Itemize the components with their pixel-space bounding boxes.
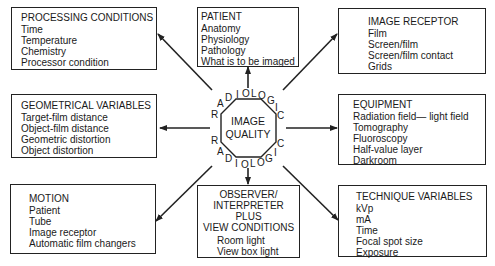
ring-letter: I [235, 159, 238, 169]
box-item: Grids [368, 61, 485, 72]
box-item: Image receptor [29, 227, 155, 238]
box-item: Time [356, 225, 486, 236]
box-item: Radiation field— light field [353, 111, 485, 122]
box-title-line: OBSERVER/ [198, 189, 299, 200]
ring-letter: R [211, 110, 218, 120]
box-item: What is to be imaged [201, 56, 298, 67]
ring-letter: R [211, 136, 218, 146]
box-item: Half-value layer [353, 144, 485, 155]
ring-letter: I [274, 148, 277, 158]
ring-letter: L [251, 89, 257, 99]
box-item: Temperature [21, 35, 156, 46]
ring-letter: O [241, 160, 249, 170]
ring-letter: A [217, 147, 224, 157]
box-item: Chemistry [21, 46, 156, 57]
box-item: View box light [198, 246, 299, 257]
ring-letter: G [265, 154, 273, 164]
box-item: Screen/film contact [368, 50, 485, 61]
technique-variables-box: TECHNIQUE VARIABLES kVp mA Time Focal sp… [338, 185, 487, 257]
box-title: PROCESSING CONDITIONS [21, 12, 156, 23]
box-title-line: PLUS [198, 211, 299, 222]
ring-letter: O [258, 91, 266, 101]
box-item: Exposure [356, 247, 486, 258]
observer-interpreter-box: OBSERVER/ INTERPRETER PLUS VIEW CONDITIO… [197, 185, 300, 258]
box-item: Fluoroscopy [353, 133, 485, 144]
ring-letter: A [217, 99, 224, 109]
box-item: Pathology [201, 45, 298, 56]
equipment-box: EQUIPMENT Radiation field— light field T… [338, 94, 486, 165]
motion-box: MOTION Patient Tube Image receptor Autom… [10, 184, 156, 254]
box-item: Physiology [201, 34, 298, 45]
box-item: Film [368, 28, 485, 39]
box-item: mA [356, 214, 486, 225]
box-item: Object-film distance [21, 123, 156, 134]
ring-letter: O [242, 89, 250, 99]
geometrical-variables-box: GEOMETRICAL VARIABLES Target-film distan… [11, 94, 157, 158]
box-title: IMAGE RECEPTOR [368, 16, 485, 27]
image-receptor-box: IMAGE RECEPTOR Film Screen/film Screen/f… [338, 8, 486, 74]
box-title: EQUIPMENT [353, 99, 485, 110]
box-item: kVp [356, 203, 486, 214]
box-item: Automatic film changers [29, 238, 155, 249]
ring-letter: O [257, 158, 265, 168]
ring-letter: C [277, 139, 284, 149]
box-item: Patient [29, 205, 155, 216]
center-title-line2: QUALITY [220, 128, 276, 141]
patient-box: PATIENT Anatomy Physiology Pathology Wha… [197, 7, 299, 67]
ring-letter: L [250, 159, 256, 169]
box-item: Processor condition [21, 57, 156, 68]
box-item: Room light [198, 235, 299, 246]
box-item: Anatomy [201, 23, 298, 34]
box-item: Target-film distance [21, 112, 156, 123]
ring-letter: C [277, 111, 284, 121]
box-item: Geometric distortion [21, 134, 156, 145]
ring-letter: D [225, 93, 232, 103]
box-title: TECHNIQUE VARIABLES [356, 191, 486, 202]
box-title-line: VIEW CONDITIONS [198, 222, 299, 233]
box-title: MOTION [29, 193, 155, 204]
box-title: GEOMETRICAL VARIABLES [21, 100, 156, 111]
box-item: Time [21, 24, 156, 35]
box-item: Focal spot size [356, 236, 486, 247]
box-item: Tube [29, 216, 155, 227]
box-item: Object distortion [21, 145, 156, 156]
image-quality-label: IMAGE QUALITY [220, 115, 276, 141]
box-item: Darkroom [353, 155, 485, 166]
box-title: PATIENT [201, 11, 298, 22]
center-title-line1: IMAGE [220, 115, 276, 128]
processing-conditions-box: PROCESSING CONDITIONS Time Temperature C… [11, 7, 157, 70]
ring-letter: D [225, 154, 232, 164]
ring-letter: I [236, 90, 239, 100]
ring-letter: G [267, 96, 275, 106]
box-item: Tomography [353, 122, 485, 133]
box-title-line: INTERPRETER [198, 200, 299, 211]
box-item: Screen/film [368, 39, 485, 50]
